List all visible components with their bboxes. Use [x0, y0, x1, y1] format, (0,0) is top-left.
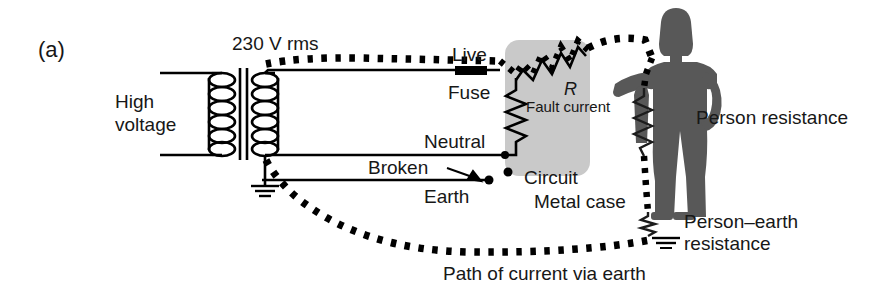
supply-voltage-label: 230 V rms: [232, 33, 319, 54]
fuse-label: Fuse: [448, 82, 490, 103]
panel-label: (a): [38, 37, 65, 62]
figure-caption: Path of current via earth: [443, 263, 646, 284]
transformer-primary-coil: [209, 73, 235, 156]
current-path-person-leg: [644, 156, 648, 212]
broken-label: Broken: [368, 157, 428, 178]
earth-wire-end-node: [485, 176, 494, 185]
figure-container: (a) 230 V rms High voltage Live Fuse Neu…: [0, 0, 881, 292]
fuse-icon: [455, 66, 487, 75]
neutral-label: Neutral: [424, 131, 485, 152]
case-earth-node: [504, 168, 513, 177]
transformer-core: [240, 68, 247, 160]
fault-current-label: Fault current: [526, 98, 611, 115]
person-earth-label-line1: Person–earth: [684, 211, 798, 232]
earth-label: Earth: [424, 186, 469, 207]
resistor-symbol-label: R: [564, 79, 577, 99]
current-path-to-person: [588, 38, 652, 58]
live-label: Live: [452, 44, 487, 65]
high-voltage-label-line2: voltage: [115, 114, 176, 135]
metal-case-label: Metal case: [534, 191, 626, 212]
earth-ground-icon-supply: [251, 186, 279, 196]
transformer-secondary-coil: [252, 73, 278, 156]
earth-ground-icon-person: [652, 238, 680, 248]
high-voltage-label-line1: High: [115, 91, 154, 112]
circuit-label: Circuit: [524, 167, 579, 188]
circuit-diagram: (a) 230 V rms High voltage Live Fuse Neu…: [0, 0, 881, 292]
person-earth-label-line2: resistance: [684, 233, 771, 254]
person-resistance-label: Person resistance: [696, 107, 848, 128]
